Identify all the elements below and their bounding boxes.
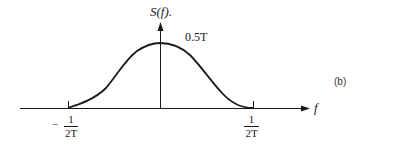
right-tick-denominator: 2T (244, 128, 259, 139)
x-axis-label: f (314, 100, 318, 116)
left-tick-sign: − (52, 118, 58, 130)
y-axis-arrow-icon (158, 22, 164, 31)
subfigure-label: (b) (334, 76, 346, 87)
peak-value-label: 0.5T (185, 30, 207, 45)
left-tick-denominator: 2T (64, 128, 78, 139)
spectrum-plot (0, 0, 395, 146)
right-tick-label: 1 2T (244, 114, 259, 139)
x-axis-arrow-icon (301, 106, 310, 112)
y-axis-label: S(f). (150, 4, 172, 20)
left-tick-numerator: 1 (64, 114, 78, 125)
left-tick-label: 1 2T (64, 114, 78, 139)
right-tick-numerator: 1 (244, 114, 259, 125)
